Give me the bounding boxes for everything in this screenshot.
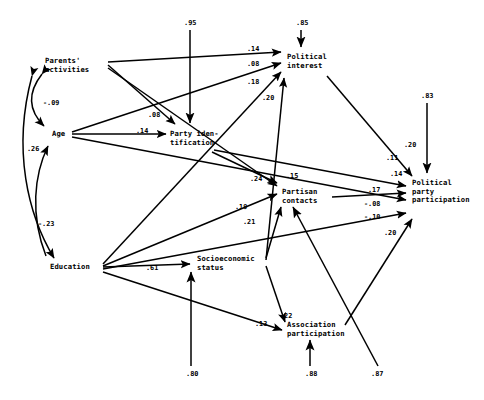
coefficient-contacts-to-ppp-a: .14	[390, 171, 402, 178]
disturbance-political-party-participation: .83	[421, 93, 433, 100]
disturbance-political-interest: .85	[296, 20, 308, 27]
edge-association-participation-to-political-party-participation	[345, 219, 412, 325]
correlation-label-parents-age: -.09	[43, 100, 59, 107]
correlation-label-parents-education: -.23	[38, 221, 54, 228]
node-political-interest: Political interest	[287, 53, 327, 70]
coefficient-education-to-ses: .61	[146, 265, 158, 272]
node-parents-activities: Parents' activities	[45, 57, 89, 74]
edge-education-to-political-interest	[103, 72, 281, 264]
edge-socioeconomic-status-to-political-interest	[266, 78, 284, 260]
correlation-age-education	[36, 146, 48, 256]
node-age: Age	[52, 130, 65, 139]
node-association-participation: Association participation	[287, 321, 345, 338]
node-socioeconomic-status: Socioeconomic status	[197, 255, 255, 272]
coefficient-parents-to-partyid: .08	[148, 112, 160, 119]
node-partisan-contacts: Partisan contacts	[282, 188, 317, 205]
edge-age-to-political-party-participation	[72, 137, 406, 200]
node-party-identification: Party iden- tification	[170, 130, 219, 147]
disturbance-association-participation: .88	[305, 371, 317, 378]
coefficient-parents-to-contacts: .15	[286, 173, 298, 180]
coefficient-partyid-to-ppp: .11	[386, 155, 398, 162]
path-diagram-canvas: Parents' activities Age Education Party …	[0, 0, 484, 400]
edge-age-to-political-interest	[72, 63, 281, 132]
coefficient-education-to-interest: .18	[247, 79, 259, 86]
coefficient-ses-to-assoc: .22	[280, 313, 292, 320]
coefficient-age-to-partyid: .14	[136, 128, 148, 135]
node-education: Education	[50, 263, 90, 272]
coefficient-ses-to-contacts: .21	[243, 219, 255, 226]
coefficient-age-to-interest: .08	[247, 61, 259, 68]
coefficient-education-to-assoc: .13	[255, 321, 267, 328]
coefficient-contacts-to-ppp-b: .17	[368, 187, 380, 194]
coefficient-parents-to-interest: .14	[247, 46, 259, 53]
edge-party-identification-to-political-party-participation	[214, 150, 406, 186]
edge-political-interest-to-political-party-participation	[327, 76, 412, 176]
coefficient-education-to-ppp: -.10	[364, 214, 380, 221]
coefficient-partyid-to-contacts: .24	[250, 176, 262, 183]
coefficient-assoc-to-ppp: .20	[384, 230, 396, 237]
disturbance-socioeconomic-status: .80	[186, 371, 198, 378]
correlation-label-age-education: .26	[27, 146, 39, 153]
disturbance-partisan-contacts: .87	[371, 371, 383, 378]
node-political-party-participation: Political party participation	[412, 179, 470, 205]
coefficient-education-to-contacts: .19	[235, 204, 247, 211]
coefficient-age-to-ppp: -.08	[364, 201, 380, 208]
coefficient-interest-to-ppp: .20	[404, 142, 416, 149]
coefficient-ses-to-interest: .20	[262, 95, 274, 102]
edge-parents-activities-to-party-identification	[108, 65, 175, 124]
edge-party-identification-to-partisan-contacts	[212, 152, 277, 183]
disturbance-party-identification: .95	[184, 20, 196, 27]
